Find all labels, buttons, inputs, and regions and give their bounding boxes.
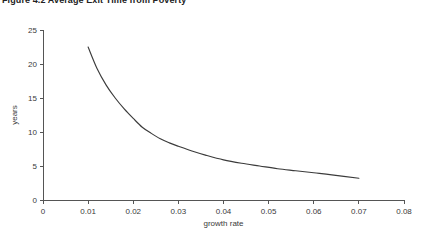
y-tick-label: 10 — [28, 128, 37, 137]
y-tick-label: 15 — [28, 94, 37, 103]
y-axis-title: years — [10, 105, 19, 125]
x-axis-title: growth rate — [203, 219, 244, 228]
x-tick-label: 0 — [41, 207, 46, 216]
x-tick-label: 0.03 — [171, 207, 187, 216]
chart-svg: 0510152025 00.010.020.030.040.050.060.07… — [0, 0, 422, 237]
data-series-group — [88, 47, 359, 178]
x-tick-label: 0.05 — [261, 207, 277, 216]
x-tick-label: 0.08 — [396, 207, 412, 216]
y-tick-label: 20 — [28, 60, 37, 69]
y-tick-label: 25 — [28, 26, 37, 35]
x-tick-label: 0.06 — [306, 207, 322, 216]
y-tick-label: 0 — [33, 196, 38, 205]
data-line-average-exit-time — [88, 47, 359, 178]
x-tick-label: 0.01 — [80, 207, 96, 216]
chart-plot-area: 0510152025 00.010.020.030.040.050.060.07… — [0, 0, 422, 237]
x-tick-label: 0.07 — [351, 207, 367, 216]
y-tick-label: 5 — [33, 162, 38, 171]
y-axis: 0510152025 — [28, 26, 43, 205]
x-axis: 00.010.020.030.040.050.060.070.08 — [41, 200, 413, 216]
x-tick-label: 0.02 — [125, 207, 141, 216]
x-tick-label: 0.04 — [216, 207, 232, 216]
